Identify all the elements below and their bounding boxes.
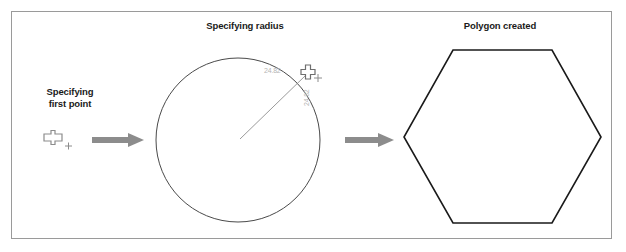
created-hexagon — [404, 50, 601, 223]
arrow-radius-to-polygon-icon — [345, 133, 394, 147]
radius-circle — [156, 58, 320, 222]
first-point-cursor-icon — [44, 131, 72, 150]
vertical-dimension-label: 24.82 — [303, 89, 310, 106]
radius-point-cursor-icon — [301, 65, 322, 82]
caption-specifying-radius: Specifying radius — [175, 20, 315, 32]
caption-specifying-first-point: Specifying first point — [10, 86, 130, 110]
cad-polygon-tutorial-figure: 24.82 24.82 Specifying radius Polyg — [0, 0, 626, 252]
caption-polygon-created: Polygon created — [430, 20, 570, 32]
arrow-first-point-to-radius-icon — [92, 133, 144, 147]
diagram-canvas: 24.82 24.82 — [0, 0, 626, 252]
horizontal-dimension-label: 24.82 — [264, 67, 281, 74]
radius-line — [240, 75, 306, 139]
